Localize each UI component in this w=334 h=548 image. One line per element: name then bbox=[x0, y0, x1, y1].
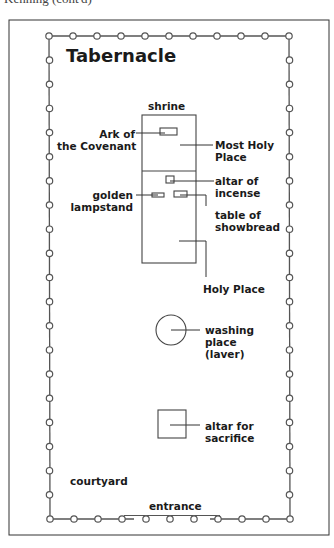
fence-post bbox=[286, 298, 292, 304]
fence-post bbox=[214, 33, 220, 39]
label-lampstand: golden lampstand bbox=[70, 189, 133, 213]
fence-post bbox=[286, 492, 292, 498]
fence-post bbox=[46, 33, 52, 39]
fence-post bbox=[286, 226, 292, 232]
fence-post bbox=[46, 347, 52, 353]
fence-post bbox=[263, 516, 269, 522]
fence-post bbox=[286, 274, 292, 280]
label-holy-place: Holy Place bbox=[203, 283, 265, 295]
fence-post bbox=[71, 516, 77, 522]
fence-post bbox=[46, 105, 52, 111]
fence-post bbox=[286, 178, 292, 184]
fence-post bbox=[286, 154, 292, 160]
fence-post bbox=[215, 516, 221, 522]
label-altar-sacrifice: altar for sacrifice bbox=[205, 420, 254, 444]
label-laver: washing place (laver) bbox=[205, 324, 254, 360]
fence-post bbox=[286, 105, 292, 111]
fence-post bbox=[286, 323, 292, 329]
fence-post bbox=[239, 516, 245, 522]
fence-post bbox=[167, 516, 173, 522]
label-courtyard: courtyard bbox=[70, 475, 128, 487]
fence-post bbox=[70, 33, 76, 39]
fence-post bbox=[286, 57, 292, 63]
label-showbread: table of showbread bbox=[215, 209, 280, 233]
fence-post bbox=[46, 395, 52, 401]
incense-altar-shape bbox=[166, 176, 174, 183]
fence-post bbox=[118, 33, 124, 39]
fence-post bbox=[47, 516, 53, 522]
fence-post bbox=[286, 250, 292, 256]
fence-post bbox=[286, 129, 292, 135]
fence-post bbox=[95, 516, 101, 522]
fence-post bbox=[286, 33, 292, 39]
fence-post bbox=[143, 516, 149, 522]
fence-post bbox=[286, 81, 292, 87]
fence-post bbox=[46, 371, 52, 377]
fence-post bbox=[166, 33, 172, 39]
outer-frame bbox=[9, 20, 329, 535]
table-shape bbox=[174, 191, 187, 197]
fence-post bbox=[46, 298, 52, 304]
ark-shape bbox=[160, 128, 177, 135]
fence-post bbox=[46, 57, 52, 63]
fence-post bbox=[190, 33, 196, 39]
fence-post bbox=[46, 274, 52, 280]
fence-post bbox=[238, 33, 244, 39]
label-most-holy-place: Most Holy Place bbox=[215, 139, 274, 163]
fence-post bbox=[46, 323, 52, 329]
fence-post bbox=[286, 371, 292, 377]
fence-post bbox=[286, 202, 292, 208]
fence-post bbox=[46, 81, 52, 87]
label-altar-incense: altar of incense bbox=[215, 175, 260, 199]
diagram-title: Tabernacle bbox=[66, 45, 176, 66]
fence-post bbox=[46, 226, 52, 232]
fence-post bbox=[286, 443, 292, 449]
fence-post bbox=[286, 468, 292, 474]
leader-lines bbox=[136, 133, 214, 425]
fence-post bbox=[286, 395, 292, 401]
fence-post bbox=[119, 516, 125, 522]
label-entrance: entrance bbox=[149, 500, 202, 512]
fence-post bbox=[94, 33, 100, 39]
fence-post bbox=[262, 33, 268, 39]
fence-post bbox=[46, 468, 52, 474]
fence-post bbox=[286, 419, 292, 425]
fence-post bbox=[46, 178, 52, 184]
fence-post bbox=[46, 443, 52, 449]
fence-post bbox=[46, 492, 52, 498]
fence-post bbox=[287, 516, 293, 522]
tabernacle-diagram bbox=[0, 0, 334, 548]
label-shrine: shrine bbox=[148, 100, 185, 112]
fence-post bbox=[46, 250, 52, 256]
fence-post bbox=[46, 419, 52, 425]
label-ark: Ark of the Covenant bbox=[57, 128, 135, 152]
fence-post bbox=[286, 347, 292, 353]
sacrifice-altar-shape bbox=[158, 410, 186, 438]
fence-post bbox=[46, 202, 52, 208]
fence-post bbox=[46, 129, 52, 135]
fence-post bbox=[46, 154, 52, 160]
fence-post bbox=[191, 516, 197, 522]
fence-post bbox=[142, 33, 148, 39]
